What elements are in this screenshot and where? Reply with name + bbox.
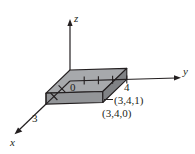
y-axis-label: y (182, 65, 188, 77)
origin-label: 0 (70, 81, 76, 93)
x-tick-value-3: 3 (32, 112, 38, 124)
y-tick-value-4: 4 (124, 81, 130, 93)
point-label-top: (3,4,1) (114, 94, 144, 107)
coordinate-system-diagram: z y x 0 3 4 (3,4,1) (3,4,0) (0, 0, 195, 154)
z-axis-label: z (73, 12, 79, 24)
figure-container: z y x 0 3 4 (3,4,1) (3,4,0) (0, 0, 195, 154)
x-axis-label: x (9, 136, 15, 148)
point-label-bottom: (3,4,0) (102, 107, 132, 120)
